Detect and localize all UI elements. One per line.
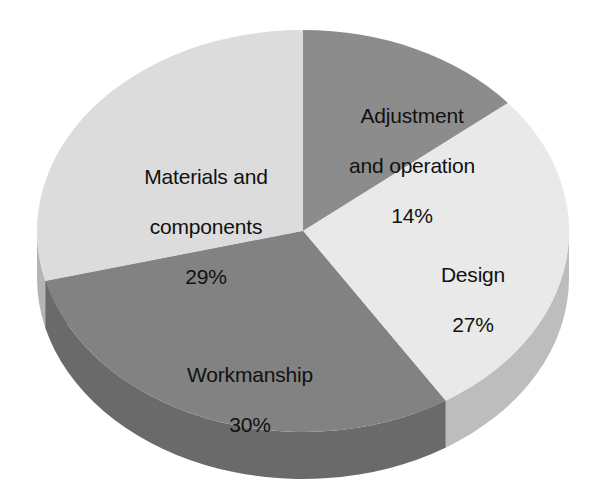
pie-chart-graphic: [0, 0, 595, 488]
pie-chart-figure: Adjustment and operation 14% Design 27% …: [0, 0, 595, 488]
pie-top-slices: [37, 30, 569, 432]
